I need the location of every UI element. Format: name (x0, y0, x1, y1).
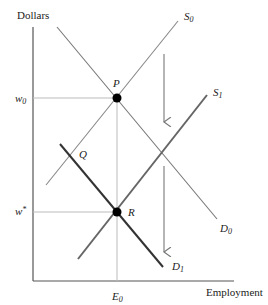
point-p (113, 94, 122, 103)
demand-curve-d1 (60, 144, 163, 267)
y-axis-label: Dollars (17, 9, 49, 21)
label-s1: S1 (213, 86, 223, 100)
point-r (113, 208, 122, 217)
label-r: R (127, 206, 135, 218)
tick-E0: E0 (111, 290, 123, 304)
label-s0: S0 (184, 10, 194, 24)
supply-curve-s0 (46, 21, 178, 185)
labor-market-diagram: Dollars Employment w0 w* E0 S0 S1 D0 D1 … (0, 0, 268, 305)
tick-wstar: w* (15, 205, 26, 217)
x-axis-label: Employment (206, 286, 263, 298)
label-p: P (112, 77, 120, 89)
demand-curve-d0 (57, 27, 217, 219)
tick-w0: w0 (15, 92, 26, 106)
label-d0: D0 (219, 222, 232, 236)
label-q: Q (79, 148, 87, 160)
label-d1: D1 (171, 260, 184, 274)
supply-curve-s1 (78, 95, 207, 259)
